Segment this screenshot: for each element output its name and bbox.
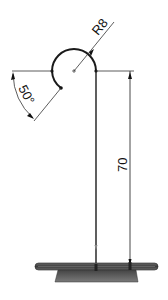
height-arrow-top [128,72,132,79]
angle-arrow-top [11,72,15,80]
hook-arc [52,49,96,88]
radius-label: R8 [89,16,111,38]
angle-extension-line [34,88,61,121]
technical-drawing: R8 70 50° [0,0,168,300]
angle-label: 50° [15,82,37,106]
angle-arrow-bottom [27,113,34,119]
base-plate [35,262,158,282]
height-label: 70 [115,158,130,172]
rod-marker [95,245,98,250]
